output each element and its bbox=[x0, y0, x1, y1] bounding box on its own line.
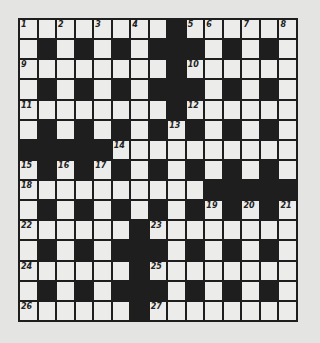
answer-cell[interactable] bbox=[131, 141, 148, 159]
answer-cell[interactable] bbox=[150, 181, 167, 199]
answer-cell[interactable] bbox=[205, 60, 222, 78]
answer-cell[interactable] bbox=[242, 101, 259, 119]
answer-cell[interactable]: 4 bbox=[131, 20, 148, 38]
answer-cell[interactable] bbox=[57, 221, 74, 239]
answer-cell[interactable]: 11 bbox=[20, 101, 37, 119]
answer-cell[interactable] bbox=[150, 101, 167, 119]
answer-cell[interactable]: 16 bbox=[57, 161, 74, 179]
answer-cell[interactable]: 2 bbox=[57, 20, 74, 38]
answer-cell[interactable]: 8 bbox=[279, 20, 296, 38]
answer-cell[interactable] bbox=[224, 101, 241, 119]
answer-cell[interactable] bbox=[150, 20, 167, 38]
answer-cell[interactable] bbox=[39, 101, 56, 119]
answer-cell[interactable] bbox=[76, 221, 93, 239]
answer-cell[interactable] bbox=[94, 60, 111, 78]
answer-cell[interactable] bbox=[150, 141, 167, 159]
answer-cell[interactable] bbox=[205, 302, 222, 320]
answer-cell[interactable] bbox=[224, 262, 241, 280]
answer-cell[interactable] bbox=[39, 302, 56, 320]
answer-cell[interactable] bbox=[57, 181, 74, 199]
answer-cell[interactable] bbox=[242, 302, 259, 320]
answer-cell[interactable] bbox=[224, 20, 241, 38]
answer-cell[interactable] bbox=[131, 101, 148, 119]
answer-cell[interactable] bbox=[20, 241, 37, 259]
answer-cell[interactable] bbox=[242, 161, 259, 179]
answer-cell[interactable] bbox=[39, 181, 56, 199]
answer-cell[interactable] bbox=[20, 201, 37, 219]
answer-cell[interactable] bbox=[94, 181, 111, 199]
answer-cell[interactable]: 21 bbox=[279, 201, 296, 219]
answer-cell[interactable] bbox=[131, 161, 148, 179]
answer-cell[interactable] bbox=[94, 40, 111, 58]
answer-cell[interactable] bbox=[94, 282, 111, 300]
answer-cell[interactable] bbox=[57, 80, 74, 98]
answer-cell[interactable]: 15 bbox=[20, 161, 37, 179]
answer-cell[interactable] bbox=[279, 241, 296, 259]
answer-cell[interactable] bbox=[94, 241, 111, 259]
answer-cell[interactable] bbox=[76, 262, 93, 280]
answer-cell[interactable] bbox=[76, 302, 93, 320]
answer-cell[interactable] bbox=[261, 221, 278, 239]
answer-cell[interactable] bbox=[279, 262, 296, 280]
answer-cell[interactable] bbox=[94, 201, 111, 219]
answer-cell[interactable]: 26 bbox=[20, 302, 37, 320]
answer-cell[interactable] bbox=[131, 60, 148, 78]
answer-cell[interactable] bbox=[187, 262, 204, 280]
answer-cell[interactable] bbox=[57, 101, 74, 119]
answer-cell[interactable] bbox=[224, 60, 241, 78]
answer-cell[interactable] bbox=[279, 40, 296, 58]
answer-cell[interactable]: 25 bbox=[150, 262, 167, 280]
answer-cell[interactable] bbox=[150, 60, 167, 78]
answer-cell[interactable] bbox=[57, 40, 74, 58]
answer-cell[interactable]: 9 bbox=[20, 60, 37, 78]
answer-cell[interactable]: 5 bbox=[187, 20, 204, 38]
answer-cell[interactable] bbox=[131, 121, 148, 139]
answer-cell[interactable] bbox=[242, 282, 259, 300]
answer-cell[interactable] bbox=[94, 221, 111, 239]
answer-cell[interactable]: 7 bbox=[242, 20, 259, 38]
answer-cell[interactable] bbox=[261, 20, 278, 38]
answer-cell[interactable]: 1 bbox=[20, 20, 37, 38]
answer-cell[interactable] bbox=[113, 302, 130, 320]
answer-cell[interactable]: 17 bbox=[94, 161, 111, 179]
answer-cell[interactable] bbox=[94, 262, 111, 280]
answer-cell[interactable] bbox=[39, 221, 56, 239]
answer-cell[interactable] bbox=[205, 241, 222, 259]
answer-cell[interactable] bbox=[279, 282, 296, 300]
answer-cell[interactable] bbox=[187, 221, 204, 239]
answer-cell[interactable] bbox=[279, 60, 296, 78]
answer-cell[interactable] bbox=[20, 121, 37, 139]
answer-cell[interactable] bbox=[94, 80, 111, 98]
answer-cell[interactable]: 18 bbox=[20, 181, 37, 199]
answer-cell[interactable] bbox=[261, 262, 278, 280]
answer-cell[interactable] bbox=[205, 141, 222, 159]
answer-cell[interactable]: 13 bbox=[168, 121, 185, 139]
answer-cell[interactable] bbox=[168, 221, 185, 239]
answer-cell[interactable] bbox=[261, 302, 278, 320]
answer-cell[interactable] bbox=[279, 161, 296, 179]
answer-cell[interactable] bbox=[113, 60, 130, 78]
answer-cell[interactable] bbox=[76, 20, 93, 38]
answer-cell[interactable] bbox=[279, 121, 296, 139]
answer-cell[interactable] bbox=[113, 181, 130, 199]
answer-cell[interactable] bbox=[279, 141, 296, 159]
answer-cell[interactable] bbox=[39, 60, 56, 78]
answer-cell[interactable] bbox=[94, 101, 111, 119]
answer-cell[interactable] bbox=[57, 282, 74, 300]
answer-cell[interactable]: 23 bbox=[150, 221, 167, 239]
answer-cell[interactable] bbox=[131, 40, 148, 58]
answer-cell[interactable] bbox=[168, 201, 185, 219]
answer-cell[interactable] bbox=[205, 161, 222, 179]
answer-cell[interactable]: 24 bbox=[20, 262, 37, 280]
answer-cell[interactable] bbox=[242, 80, 259, 98]
answer-cell[interactable]: 3 bbox=[94, 20, 111, 38]
answer-cell[interactable]: 10 bbox=[187, 60, 204, 78]
answer-cell[interactable] bbox=[76, 60, 93, 78]
answer-cell[interactable] bbox=[205, 221, 222, 239]
answer-cell[interactable] bbox=[168, 161, 185, 179]
answer-cell[interactable] bbox=[168, 241, 185, 259]
answer-cell[interactable] bbox=[187, 141, 204, 159]
answer-cell[interactable] bbox=[76, 181, 93, 199]
answer-cell[interactable] bbox=[224, 302, 241, 320]
answer-cell[interactable] bbox=[205, 80, 222, 98]
